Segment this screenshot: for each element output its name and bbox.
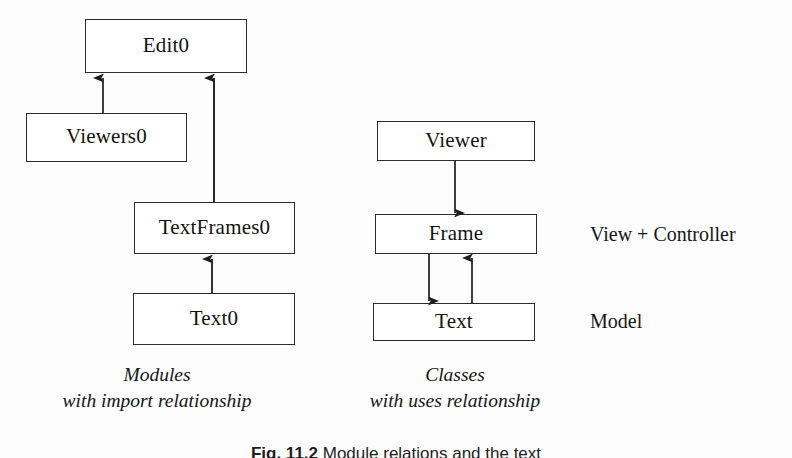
- node-viewer-label: Viewer: [425, 130, 487, 151]
- annotation-model: Model: [590, 311, 642, 331]
- node-textframes0[interactable]: TextFrames0: [134, 202, 295, 254]
- figure-caption-number: Fig. 11.2: [251, 444, 318, 458]
- node-frame[interactable]: Frame: [375, 214, 537, 254]
- node-text-label: Text: [435, 311, 473, 332]
- caption-right-group: Classes with uses relationship: [370, 362, 540, 413]
- node-frame-label: Frame: [429, 223, 484, 244]
- node-viewers0[interactable]: Viewers0: [26, 113, 187, 162]
- caption-right-line1: Classes: [370, 362, 540, 388]
- figure-caption-text: Module relations and the text: [323, 444, 541, 458]
- node-viewers0-label: Viewers0: [66, 126, 147, 147]
- caption-left-line2: with import relationship: [63, 388, 252, 414]
- node-edit0[interactable]: Edit0: [85, 19, 247, 73]
- node-textframes0-label: TextFrames0: [159, 217, 271, 238]
- node-text0[interactable]: Text0: [133, 293, 295, 345]
- caption-left-line1: Modules: [63, 362, 252, 388]
- figure-caption: Fig. 11.2 Module relations and the text: [0, 444, 792, 458]
- figure-canvas: Edit0 Viewers0 TextFrames0 Text0 Viewer …: [0, 0, 792, 458]
- caption-right-line2: with uses relationship: [370, 388, 540, 414]
- node-edit0-label: Edit0: [143, 35, 190, 56]
- caption-left-group: Modules with import relationship: [63, 362, 252, 413]
- annotation-model-label: Model: [590, 310, 642, 332]
- annotation-view-controller-label: View + Controller: [590, 223, 736, 245]
- node-viewer[interactable]: Viewer: [377, 121, 535, 161]
- node-text0-label: Text0: [190, 308, 239, 329]
- annotation-view-controller: View + Controller: [590, 224, 736, 244]
- node-text[interactable]: Text: [373, 303, 535, 341]
